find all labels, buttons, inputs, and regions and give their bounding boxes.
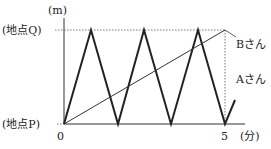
x-tick-5-label: 5 — [221, 130, 228, 143]
series-b-label: Bさん — [236, 38, 266, 51]
y-unit-label: (m) — [48, 4, 67, 17]
series-a-label: Aさん — [235, 73, 266, 86]
point-q-label: (地点Q) — [2, 24, 42, 37]
series-b-leader — [225, 30, 236, 37]
point-p-label: (地点P) — [2, 118, 40, 131]
series-a-line — [64, 30, 235, 124]
series-b-line — [64, 30, 225, 124]
x-unit-label: (分) — [240, 130, 260, 143]
origin-tick-label: 0 — [57, 130, 64, 143]
distance-time-chart: (m) (地点Q) (地点P) 0 5 (分) Bさん Aさん — [0, 0, 271, 149]
